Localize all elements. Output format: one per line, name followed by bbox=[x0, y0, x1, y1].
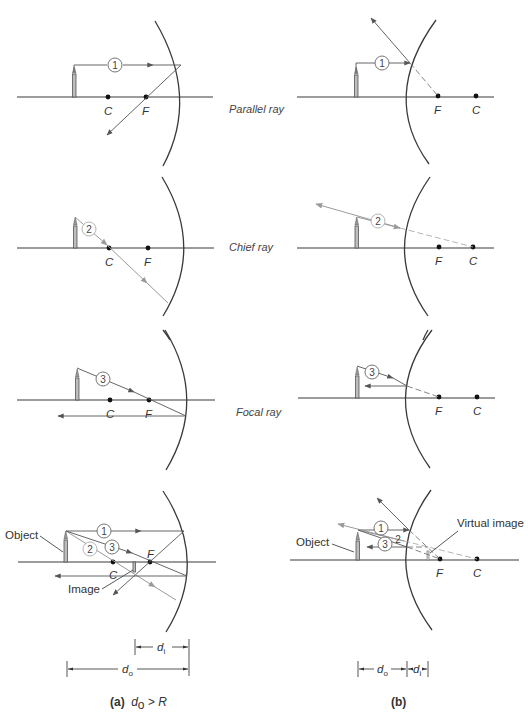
ray-number-2: 2 bbox=[87, 544, 93, 555]
virtual-image-label: Virtual image bbox=[457, 517, 524, 529]
ray-diagram-figure: C F 1 Parallel ray F C 1 bbox=[0, 0, 528, 713]
row-label-focal-ray: Focal ray bbox=[236, 406, 283, 418]
virtual-image-leader-line bbox=[430, 531, 458, 553]
label-f: F bbox=[436, 567, 444, 579]
label-c: C bbox=[469, 255, 478, 267]
ray-1-reflected bbox=[113, 531, 184, 595]
image-label: Image bbox=[68, 583, 100, 595]
panel-a-focal-ray: C F 3 bbox=[17, 330, 215, 470]
ray-number-1: 1 bbox=[379, 58, 385, 69]
focal-point bbox=[437, 395, 442, 400]
ray-number-3: 3 bbox=[382, 539, 388, 550]
ray-number-1: 1 bbox=[378, 523, 384, 534]
convex-mirror bbox=[404, 177, 430, 316]
label-c: C bbox=[109, 569, 118, 581]
ray-number-2: 2 bbox=[375, 216, 381, 227]
panel-b-parallel-ray: F C 1 bbox=[297, 18, 494, 164]
label-c: C bbox=[473, 405, 482, 417]
panel-b-chief-ray: F C 2 bbox=[297, 177, 494, 340]
center-of-curvature-point bbox=[474, 94, 479, 99]
candle-object bbox=[76, 369, 80, 400]
panel-b-combined: F C 1 3 2 Object Virtual image do bbox=[290, 490, 524, 709]
concave-mirror bbox=[155, 21, 180, 166]
candle-object bbox=[355, 217, 359, 248]
ray-number-3: 3 bbox=[369, 367, 375, 378]
dimension-do-di: do di bbox=[358, 661, 428, 678]
caption-a: (a) do > R bbox=[110, 692, 167, 712]
svg-text:do: do bbox=[377, 663, 388, 678]
label-f: F bbox=[435, 255, 443, 267]
candle-object bbox=[64, 531, 68, 562]
ray-1-extension bbox=[410, 63, 438, 96]
candle-object bbox=[356, 367, 360, 398]
image-leader-line bbox=[102, 570, 133, 589]
label-c: C bbox=[473, 567, 482, 579]
ray-number-2: 2 bbox=[395, 534, 401, 545]
ray-number-3: 3 bbox=[100, 374, 106, 385]
ray-3-extension bbox=[407, 386, 439, 397]
label-c: C bbox=[472, 104, 481, 116]
panel-a-parallel-ray: C F 1 bbox=[17, 21, 213, 166]
center-of-curvature-point bbox=[106, 95, 111, 100]
label-f: F bbox=[142, 105, 150, 117]
panel-b-focal-ray: F C 3 bbox=[298, 330, 495, 468]
row-label-parallel-ray: Parallel ray bbox=[229, 103, 286, 115]
object-leader-line bbox=[40, 536, 63, 552]
object-label: Object bbox=[296, 536, 330, 548]
concave-mirror bbox=[162, 177, 184, 316]
svg-text:do: do bbox=[122, 663, 133, 678]
label-c: C bbox=[105, 256, 114, 268]
ray-1-reflected bbox=[107, 65, 181, 135]
label-f: F bbox=[144, 256, 152, 268]
label-c: C bbox=[104, 105, 113, 117]
center-of-curvature-point bbox=[475, 395, 480, 400]
ray-number-1: 1 bbox=[101, 526, 107, 537]
virtual-image bbox=[427, 551, 429, 560]
real-image bbox=[133, 562, 136, 572]
label-f: F bbox=[435, 405, 443, 417]
object-label: Object bbox=[5, 529, 39, 541]
ray-2-reflected bbox=[338, 524, 404, 541]
ray-2-extension bbox=[400, 228, 473, 247]
svg-text:di: di bbox=[413, 663, 421, 678]
convex-mirror bbox=[406, 20, 436, 164]
panel-a-combined: C F 1 2 3 Object Image di bbox=[5, 491, 216, 712]
dimension-di: di bbox=[135, 639, 189, 676]
label-f: F bbox=[434, 104, 442, 116]
row-label-chief-ray: Chief ray bbox=[229, 241, 275, 253]
ray-1-start bbox=[74, 65, 107, 72]
panel-a-chief-ray: C F 2 bbox=[17, 177, 214, 340]
caption-b: (b) bbox=[391, 695, 406, 709]
ray-number-3: 3 bbox=[109, 542, 115, 553]
convex-mirror bbox=[405, 330, 432, 468]
svg-text:di: di bbox=[157, 641, 165, 656]
dimension-do: do bbox=[67, 661, 188, 678]
object-leader-line bbox=[332, 544, 354, 552]
ray-1-reflected bbox=[371, 18, 410, 63]
center-of-curvature-point bbox=[108, 398, 113, 403]
focal-point bbox=[146, 246, 151, 251]
ray-number-1: 1 bbox=[112, 60, 118, 71]
ray-number-2: 2 bbox=[86, 224, 92, 235]
label-f: F bbox=[145, 408, 153, 420]
focal-point bbox=[437, 245, 442, 250]
label-c: C bbox=[106, 408, 115, 420]
candle-object bbox=[74, 217, 78, 248]
candle-object bbox=[356, 532, 360, 560]
